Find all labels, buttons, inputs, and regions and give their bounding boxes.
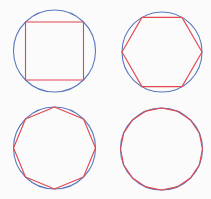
inscribed-hexagon	[122, 17, 202, 86]
panel-square	[14, 10, 96, 92]
circumscribed-circle	[122, 12, 202, 92]
panel-hexadecagon	[121, 108, 203, 190]
panel-hexagon	[122, 12, 202, 92]
inscribed-octagon	[14, 107, 96, 189]
inscribed-hexadecagon	[121, 108, 203, 190]
polygon-inscription-diagram	[0, 0, 211, 199]
inscribed-square	[26, 22, 84, 80]
panel-octagon	[14, 107, 96, 189]
